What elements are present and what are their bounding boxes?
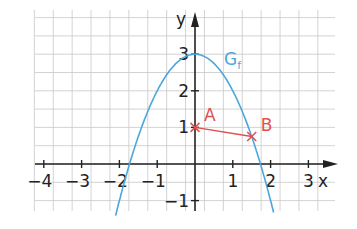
point-label: A <box>204 105 216 125</box>
y-axis-arrow-icon <box>191 12 199 27</box>
x-tick-label: 3 <box>303 171 314 191</box>
points: AB <box>191 105 273 141</box>
point-label: B <box>261 115 273 135</box>
x-tick-label: −1 <box>141 171 166 191</box>
y-tick-label: 2 <box>178 81 189 101</box>
y-tick-label: 3 <box>178 44 189 64</box>
y-axis-label: y <box>176 9 186 29</box>
x-tick-label: −3 <box>65 171 90 191</box>
y-tick-label: −1 <box>164 191 189 211</box>
x-tick-label: 1 <box>227 171 238 191</box>
function-graph: −4−3−2−1123−1123 AB x y Gf <box>0 0 357 229</box>
graph-label-gf: Gf <box>224 49 242 72</box>
x-axis-label: x <box>318 171 328 191</box>
x-axis-arrow-icon <box>323 160 338 168</box>
graph-label-subscript: f <box>237 59 242 72</box>
y-tick-label: 1 <box>178 117 189 137</box>
graph-label-main: G <box>224 49 237 69</box>
x-tick-label: −4 <box>27 171 52 191</box>
